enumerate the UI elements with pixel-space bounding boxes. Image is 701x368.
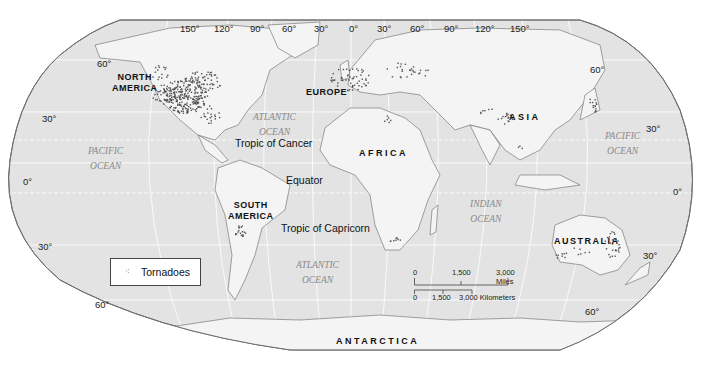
lon-label-60e: 60° <box>410 23 424 34</box>
label-antarctica: ANTARCTICA <box>336 336 419 346</box>
lon-label-60w: 60° <box>282 23 296 34</box>
lon-label-90e: 90° <box>444 23 458 34</box>
lat-label-left-60n: 60° <box>97 58 111 69</box>
legend: ⁖ Tornadoes <box>110 258 201 286</box>
lat-label-right-60s: 60° <box>585 306 599 317</box>
scale-bar: 0 1,500 3,000 Miles 0 1,500 3,000 Kilome… <box>412 268 532 302</box>
lon-label-30e: 30° <box>377 23 391 34</box>
label-asia: ASIA <box>509 112 541 122</box>
label-atlantic-north: ATLANTIC OCEAN <box>253 110 296 140</box>
label-australia: AUSTRALIA <box>554 236 620 247</box>
label-pacific-east: PACIFIC OCEAN <box>605 129 640 159</box>
lat-label-right-0: 0° <box>673 186 682 197</box>
lon-label-150e: 150° <box>510 23 530 34</box>
label-north-america: NORTH AMERICA <box>112 72 158 94</box>
tornado-symbol-icon: ⁖ <box>125 267 130 276</box>
lat-label-right-30n: 30° <box>646 123 660 134</box>
label-pacific-west: PACIFIC OCEAN <box>88 144 123 174</box>
lat-label-left-30n: 30° <box>42 113 56 124</box>
lon-label-120e: 120° <box>475 23 495 34</box>
label-tropic-of-capricorn: Tropic of Capricorn <box>281 222 370 234</box>
label-tropic-of-cancer: Tropic of Cancer <box>235 137 312 149</box>
lat-label-right-60n: 60° <box>590 64 604 75</box>
scale-km-1500: 1,500 <box>432 293 451 302</box>
label-atlantic-south: ATLANTIC OCEAN <box>296 258 339 288</box>
label-equator: Equator <box>286 174 323 186</box>
lon-label-120w: 120° <box>214 23 234 34</box>
lat-label-left-60s: 60° <box>95 299 109 310</box>
label-africa: AFRICA <box>359 148 408 158</box>
lon-label-30w: 30° <box>314 23 328 34</box>
scale-km-3000: 3,000 Kilometers <box>459 293 515 302</box>
lat-label-left-0: 0° <box>23 176 32 187</box>
scale-miles-1500: 1,500 <box>452 268 471 277</box>
lon-label-90w: 90° <box>250 23 264 34</box>
lon-label-0: 0° <box>349 23 358 34</box>
lat-label-right-30s: 30° <box>643 250 657 261</box>
label-south-america: SOUTH AMERICA <box>228 200 274 222</box>
lat-label-left-30s: 30° <box>38 241 52 252</box>
scale-miles-0: 0 <box>413 268 417 277</box>
scale-km-0: 0 <box>413 293 417 302</box>
label-indian-ocean: INDIAN OCEAN <box>470 197 502 227</box>
lon-label-150w: 150° <box>180 23 200 34</box>
legend-label: Tornadoes <box>141 266 190 278</box>
label-europe: EUROPE <box>306 87 347 98</box>
